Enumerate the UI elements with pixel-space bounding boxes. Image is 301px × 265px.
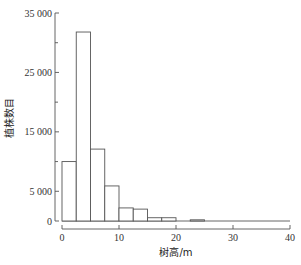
y-tick-label: 25 000	[25, 67, 53, 78]
histogram-bar	[133, 209, 147, 221]
y-tick-label: 15 000	[25, 126, 53, 137]
x-tick-label: 10	[114, 232, 124, 243]
x-tick-label: 20	[171, 232, 181, 243]
histogram-bar	[148, 218, 162, 221]
x-tick-label: 0	[60, 232, 65, 243]
histogram-bar	[162, 218, 176, 221]
x-tick-label: 40	[285, 232, 295, 243]
y-axis-title: 植株数目	[3, 98, 15, 138]
y-axis: 05 00015 00025 00035 000	[25, 8, 60, 227]
y-tick-label: 35 000	[25, 8, 53, 19]
x-tick-label: 30	[228, 232, 238, 243]
y-tick-label: 5 000	[30, 186, 53, 197]
histogram-bar	[119, 208, 133, 221]
histogram-bar	[62, 162, 76, 221]
histogram-bar	[91, 149, 105, 221]
histogram-bar	[105, 186, 119, 221]
x-axis-title: 树高/m	[159, 246, 192, 258]
y-tick-label: 0	[47, 216, 52, 227]
histogram-chart: 05 00015 00025 00035 000 010203040 植株数目 …	[0, 0, 301, 265]
bars	[62, 32, 290, 221]
x-axis: 010203040	[60, 225, 296, 243]
histogram-bar	[190, 220, 204, 221]
histogram-bar	[76, 32, 90, 221]
